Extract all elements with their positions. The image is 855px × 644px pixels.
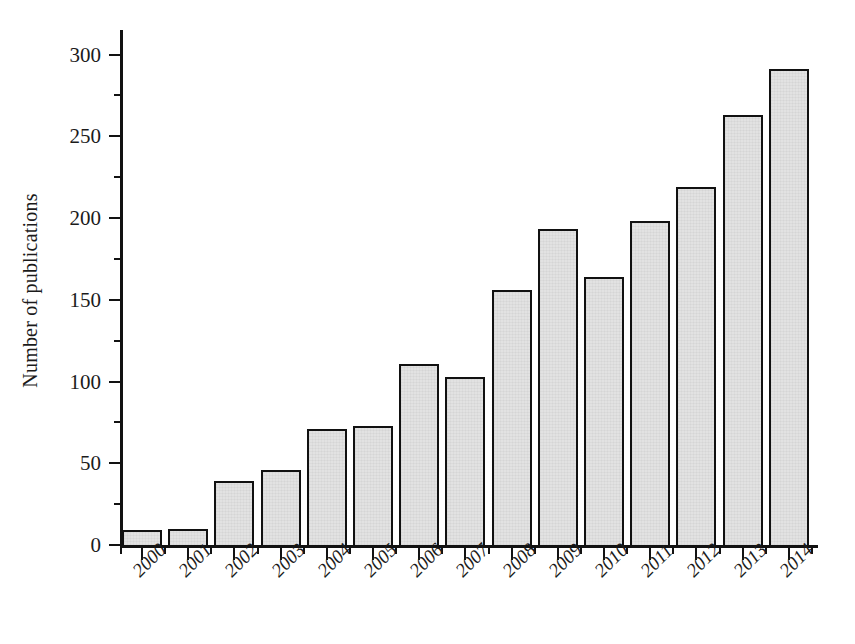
- bar: [492, 290, 532, 545]
- y-axis-major-tick: 200: [109, 217, 122, 219]
- y-axis-minor-tick: [114, 421, 122, 423]
- y-axis-tick-label: 50: [80, 451, 101, 476]
- y-axis-minor-tick: [114, 176, 122, 178]
- y-axis-minor-tick: [114, 340, 122, 342]
- bar: [723, 115, 763, 545]
- y-axis-tick-label: 150: [70, 287, 102, 312]
- y-axis-minor-tick: [114, 503, 122, 505]
- plot-area: 050100150200250300 200020012002200320042…: [120, 30, 818, 548]
- bar: [353, 426, 393, 545]
- y-axis-tick-label: 250: [70, 124, 102, 149]
- y-axis-title: Number of publications: [0, 0, 60, 580]
- y-axis-tick-label: 300: [70, 42, 102, 67]
- y-axis-spine: [120, 30, 123, 548]
- y-axis-major-tick: 250: [109, 135, 122, 137]
- bar: [214, 481, 254, 545]
- bar: [399, 364, 439, 545]
- bar: [538, 229, 578, 545]
- y-axis-title-label: Number of publications: [19, 193, 42, 387]
- bar-chart-figure: Number of publications 05010015020025030…: [0, 0, 855, 644]
- bar: [307, 429, 347, 545]
- y-axis-minor-tick: [114, 258, 122, 260]
- bar: [769, 69, 809, 545]
- bar: [676, 187, 716, 545]
- y-axis-major-tick: 150: [109, 299, 122, 301]
- y-axis-major-tick: 50: [109, 462, 122, 464]
- y-axis-tick-label: 200: [70, 206, 102, 231]
- bar: [584, 277, 624, 545]
- bar: [261, 470, 301, 545]
- x-axis-minor-tick: [120, 547, 122, 554]
- y-axis-major-tick: 0: [109, 544, 122, 546]
- bar: [630, 221, 670, 545]
- y-axis-major-tick: 100: [109, 381, 122, 383]
- y-axis-tick-label: 100: [70, 369, 102, 394]
- y-axis-tick-label: 0: [91, 533, 102, 558]
- bar: [445, 377, 485, 545]
- y-axis-minor-tick: [114, 94, 122, 96]
- y-axis-major-tick: 300: [109, 54, 122, 56]
